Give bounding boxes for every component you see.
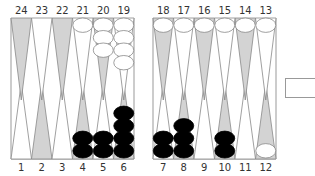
white-checker[interactable] <box>73 18 93 32</box>
point-label-2: 2 <box>39 162 45 173</box>
side-panel-box <box>285 78 315 98</box>
point-label-9: 9 <box>201 162 207 173</box>
point-22[interactable] <box>52 18 73 100</box>
points <box>11 18 276 159</box>
point-label-16: 16 <box>198 5 211 16</box>
point-label-1: 1 <box>18 162 24 173</box>
white-checker[interactable] <box>174 18 194 32</box>
point-label-18: 18 <box>157 5 170 16</box>
white-checker[interactable] <box>114 56 134 70</box>
black-checker[interactable] <box>93 131 113 145</box>
point-label-8: 8 <box>181 162 187 173</box>
white-checker[interactable] <box>194 18 214 32</box>
point-label-7: 7 <box>160 162 166 173</box>
point-label-12: 12 <box>259 162 272 173</box>
black-checker[interactable] <box>114 106 134 120</box>
point-label-6: 6 <box>121 162 127 173</box>
point-label-17: 17 <box>177 5 190 16</box>
point-label-11: 11 <box>239 162 252 173</box>
black-checker[interactable] <box>153 131 173 145</box>
point-24[interactable] <box>11 18 32 100</box>
point-label-15: 15 <box>218 5 231 16</box>
point-label-5: 5 <box>100 162 106 173</box>
point-label-3: 3 <box>59 162 65 173</box>
white-checker[interactable] <box>256 18 276 32</box>
point-label-19: 19 <box>117 5 130 16</box>
point-label-24: 24 <box>15 5 28 16</box>
point-label-22: 22 <box>56 5 69 16</box>
point-label-14: 14 <box>239 5 252 16</box>
point-label-21: 21 <box>76 5 89 16</box>
backgammon-board: 242322212019181716151413123456789101112 <box>0 0 315 176</box>
board-frame <box>11 18 276 159</box>
point-label-23: 23 <box>35 5 48 16</box>
white-checker[interactable] <box>93 43 113 57</box>
white-checker[interactable] <box>153 18 173 32</box>
black-checker[interactable] <box>73 131 93 145</box>
point-label-20: 20 <box>97 5 110 16</box>
black-checker[interactable] <box>215 131 235 145</box>
point-label-13: 13 <box>259 5 272 16</box>
point-label-10: 10 <box>218 162 231 173</box>
white-checker[interactable] <box>235 18 255 32</box>
white-checker[interactable] <box>256 144 276 158</box>
point-23[interactable] <box>32 18 53 100</box>
white-checker[interactable] <box>215 18 235 32</box>
point-label-4: 4 <box>80 162 86 173</box>
black-checker[interactable] <box>174 119 194 133</box>
